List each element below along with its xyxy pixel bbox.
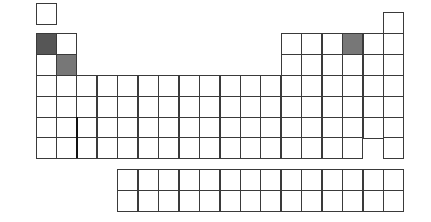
element-cell <box>179 117 200 139</box>
element-cell <box>342 75 363 97</box>
element-cell <box>363 33 384 55</box>
element-cell <box>199 96 220 118</box>
f-block-cell <box>240 169 261 191</box>
f-block-cell <box>220 190 241 212</box>
element-cell <box>342 54 363 76</box>
element-cell <box>301 54 322 76</box>
element-cell <box>301 75 322 97</box>
element-cell <box>240 75 261 97</box>
element-cell <box>117 117 138 139</box>
element-cell <box>56 117 77 139</box>
element-cell <box>97 96 118 118</box>
f-block-cell <box>383 169 404 191</box>
f-block-cell <box>281 190 302 212</box>
element-cell <box>260 117 281 139</box>
element-cell <box>322 33 343 55</box>
element-cell <box>97 75 118 97</box>
element-cell <box>56 96 77 118</box>
element-cell <box>363 96 384 118</box>
element-cell <box>281 96 302 118</box>
element-cell <box>240 96 261 118</box>
f-block-cell <box>138 190 159 212</box>
f-block-cell <box>158 169 179 191</box>
highlighted-element-cell <box>56 54 77 76</box>
element-cell <box>301 96 322 118</box>
element-cell <box>158 117 179 139</box>
f-block-cell <box>322 190 343 212</box>
element-cell <box>36 117 57 139</box>
element-cell <box>76 137 97 159</box>
element-cell <box>363 54 384 76</box>
f-block-cell <box>383 190 404 212</box>
element-cell <box>56 33 77 55</box>
f-block-cell <box>301 169 322 191</box>
element-cell <box>281 117 302 139</box>
element-cell <box>76 117 97 139</box>
element-cell <box>117 96 138 118</box>
element-cell <box>220 137 241 159</box>
element-cell <box>383 137 404 159</box>
element-cell <box>281 54 302 76</box>
f-block-cell <box>138 169 159 191</box>
element-cell <box>260 96 281 118</box>
element-cell <box>179 96 200 118</box>
element-cell <box>158 96 179 118</box>
element-cell <box>56 137 77 159</box>
f-block-cell <box>117 190 138 212</box>
element-cell <box>36 75 57 97</box>
element-cell <box>36 137 57 159</box>
element-cell <box>220 75 241 97</box>
element-cell <box>220 96 241 118</box>
f-block-cell <box>179 190 200 212</box>
f-block-cell <box>260 169 281 191</box>
f-block-cell <box>117 169 138 191</box>
element-cell <box>383 96 404 118</box>
element-cell <box>363 75 384 97</box>
element-cell <box>179 75 200 97</box>
element-cell <box>383 117 404 139</box>
element-cell <box>97 137 118 159</box>
element-cell <box>36 3 57 25</box>
f-block-cell <box>281 169 302 191</box>
element-cell <box>363 117 384 139</box>
element-cell <box>138 96 159 118</box>
element-cell <box>220 117 241 139</box>
f-block-cell <box>199 190 220 212</box>
element-cell <box>158 137 179 159</box>
element-cell <box>158 75 179 97</box>
element-cell <box>76 96 97 118</box>
f-block-cell <box>363 169 384 191</box>
element-cell <box>240 137 261 159</box>
element-cell <box>240 117 261 139</box>
f-block-cell <box>240 190 261 212</box>
element-cell <box>322 96 343 118</box>
f-block-cell <box>179 169 200 191</box>
element-cell <box>199 137 220 159</box>
element-cell <box>383 54 404 76</box>
element-cell <box>301 33 322 55</box>
f-block-cell <box>342 169 363 191</box>
element-cell <box>117 75 138 97</box>
element-cell <box>322 117 343 139</box>
f-block-cell <box>220 169 241 191</box>
element-cell <box>301 137 322 159</box>
element-cell <box>342 96 363 118</box>
element-cell <box>281 33 302 55</box>
periodic-table-diagram <box>0 0 431 222</box>
element-cell <box>342 137 363 159</box>
element-cell <box>138 75 159 97</box>
element-cell <box>322 137 343 159</box>
element-cell <box>383 12 404 34</box>
highlighted-element-cell <box>36 33 57 55</box>
element-cell <box>281 75 302 97</box>
f-block-cell <box>322 169 343 191</box>
element-cell <box>76 75 97 97</box>
element-cell <box>117 137 138 159</box>
element-cell <box>260 75 281 97</box>
f-block-cell <box>363 190 384 212</box>
element-cell <box>301 117 322 139</box>
element-cell <box>322 54 343 76</box>
f-block-cell <box>260 190 281 212</box>
element-cell <box>36 96 57 118</box>
element-cell <box>281 137 302 159</box>
